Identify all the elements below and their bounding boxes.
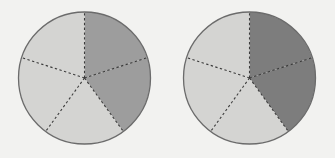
left-circle [18, 12, 150, 144]
right-circle [183, 12, 315, 144]
two-circles-fraction-diagram [0, 0, 335, 158]
figure-canvas [0, 0, 335, 158]
